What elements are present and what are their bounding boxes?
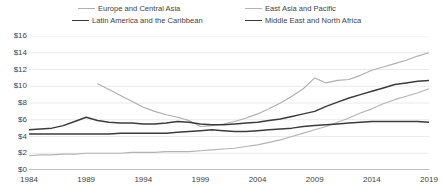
x-axis-tick-label: 2014: [352, 176, 392, 184]
y-axis-tick-label: $10: [1, 82, 27, 90]
legend-label-europe-and-central-asia: Europe and Central Asia: [98, 4, 180, 13]
x-axis-tick-label: 2009: [295, 176, 335, 184]
x-axis-tick-label: 1994: [123, 176, 163, 184]
y-axis-tick-label: $6: [1, 116, 27, 124]
legend-item-latin-america-and-the-caribbean: Latin America and the Caribbean: [72, 16, 203, 25]
y-axis-tick-label: $4: [1, 133, 27, 141]
x-axis-tick-label: 1989: [66, 176, 106, 184]
legend-item-east-asia-and-pacific: East Asia and Pacific: [245, 4, 336, 13]
x-axis-tick-label: 1984: [9, 176, 49, 184]
legend-swatch-europe-and-central-asia: [78, 8, 95, 9]
legend-label-east-asia-and-pacific: East Asia and Pacific: [265, 4, 336, 13]
legend-swatch-latin-america-and-the-caribbean: [72, 20, 89, 21]
legend-label-latin-america-and-the-caribbean: Latin America and the Caribbean: [92, 16, 203, 25]
y-axis-tick-label: $8: [1, 99, 27, 107]
legend-swatch-east-asia-and-pacific: [245, 8, 262, 9]
plot-svg: [29, 36, 429, 170]
x-axis-tick-label: 2019: [409, 176, 443, 184]
legend-label-middle-east-and-north-africa: Middle East and North Africa: [265, 16, 361, 25]
data-series-group: [29, 53, 429, 156]
y-axis-tick-label: $14: [1, 49, 27, 57]
gridlines: [29, 36, 429, 170]
legend-item-middle-east-and-north-africa: Middle East and North Africa: [245, 16, 361, 25]
y-axis-tick-label: $0: [1, 166, 27, 174]
y-axis-tick-label: $12: [1, 66, 27, 74]
legend-item-europe-and-central-asia: Europe and Central Asia: [78, 4, 180, 13]
legend-swatch-middle-east-and-north-africa: [245, 20, 262, 21]
y-axis-labels: $16$14$12$10$8$6$4$2$0: [0, 0, 27, 193]
x-axis-tick-label: 2004: [238, 176, 278, 184]
chart-legend: Europe and Central Asia East Asia and Pa…: [0, 2, 436, 30]
y-axis-tick-label: $16: [1, 32, 27, 40]
series-line: [29, 121, 429, 134]
plot-area: [29, 36, 429, 170]
y-axis-tick-label: $2: [1, 149, 27, 157]
x-axis-tick-label: 1999: [180, 176, 220, 184]
